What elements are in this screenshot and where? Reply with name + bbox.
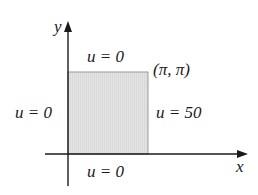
axes-and-region: [0, 0, 258, 195]
x-axis-label: x: [236, 158, 244, 175]
diagram-canvas: y x u = 0 (π, π) u = 0 u = 50 u = 0: [0, 0, 258, 195]
bottom-boundary-label: u = 0: [87, 163, 124, 180]
right-boundary-label: u = 50: [156, 104, 201, 121]
left-boundary-label: u = 0: [15, 104, 52, 121]
shaded-region: [68, 72, 148, 154]
corner-point-label: (π, π): [153, 61, 190, 78]
top-boundary-label: u = 0: [87, 48, 124, 65]
y-axis-label: y: [54, 18, 62, 35]
y-axis-arrow-icon: [64, 21, 72, 32]
